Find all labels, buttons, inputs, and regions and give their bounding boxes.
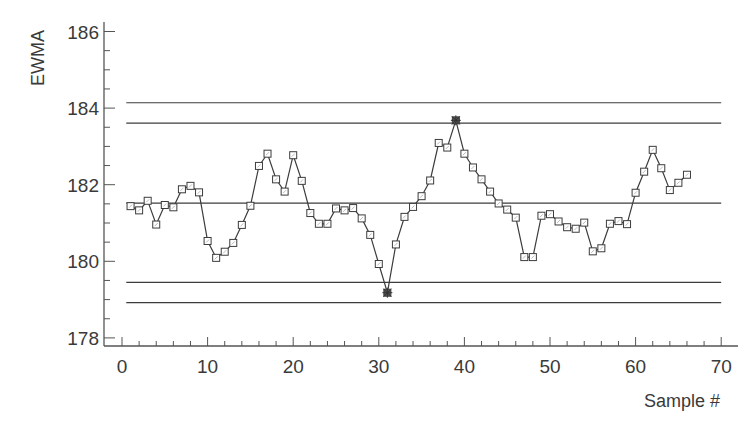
x-tick-label: 40 — [454, 356, 475, 377]
ewma-series — [127, 115, 690, 297]
y-tick-label: 182 — [67, 175, 99, 196]
y-tick-label: 186 — [67, 22, 99, 43]
x-axis-title: Sample # — [644, 391, 720, 411]
y-tick-label: 178 — [67, 328, 99, 349]
x-tick-label: 30 — [368, 356, 389, 377]
y-tick-label: 180 — [67, 251, 99, 272]
x-axis-ticks: 010203040506070 — [117, 337, 732, 377]
asterisk-marker — [382, 288, 392, 298]
asterisk-marker — [451, 115, 461, 125]
x-tick-label: 0 — [117, 356, 128, 377]
ewma-line — [131, 120, 687, 292]
y-axis-title: EWMA — [28, 30, 48, 86]
x-tick-label: 20 — [283, 356, 304, 377]
ewma-control-chart: 178180182184186 010203040506070 EWMA Sam… — [0, 0, 756, 436]
x-tick-label: 60 — [625, 356, 646, 377]
y-axis-ticks: 178180182184186 — [67, 22, 115, 349]
x-tick-label: 70 — [711, 356, 732, 377]
x-tick-label: 10 — [197, 356, 218, 377]
axes: 178180182184186 010203040506070 — [67, 22, 738, 378]
y-tick-label: 184 — [67, 98, 99, 119]
control-limit-lines — [126, 103, 721, 303]
x-tick-label: 50 — [539, 356, 560, 377]
